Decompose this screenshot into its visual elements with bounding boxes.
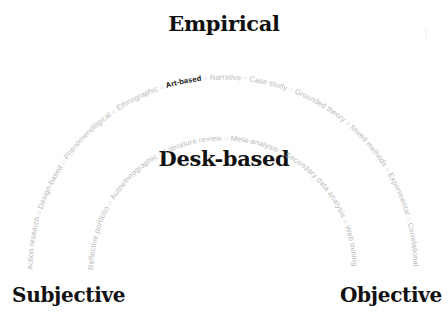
method-label-reflective-portfolio: Reflective portfolio — [86, 204, 111, 270]
methods-arc-diagram: Action research ○ Design-based ○ Phenome… — [0, 0, 448, 324]
svg-text:Reflective portfolio ○ Autoeth: Reflective portfolio ○ Autoethnographic … — [86, 133, 359, 270]
separator-circle-icon: ○ — [222, 134, 231, 141]
method-label-action-research: Action research — [25, 216, 41, 270]
method-label-web-mining: Web mining — [343, 224, 359, 266]
method-label-autoethnographic: Autoethnographic — [108, 152, 159, 201]
method-label-ethnographic: Ethnographic — [115, 84, 160, 112]
method-label-meta-analysis: Meta-analysis — [230, 134, 280, 155]
method-label-secondary-data-analysis: Secondary data analysis — [284, 150, 348, 219]
method-label-art-based: Art-based — [165, 74, 202, 90]
inner-methods-arc: Reflective portfolio ○ Autoethnographic … — [86, 133, 359, 270]
separator-circle-icon: ○ — [201, 74, 210, 82]
method-label-grounded-theory: Grounded theory — [293, 87, 348, 124]
outer-methods-arc: Action research ○ Design-based ○ Phenome… — [25, 73, 420, 271]
separator-circle-icon: ○ — [241, 74, 250, 82]
method-label-literature-review: Literature review — [163, 133, 223, 155]
separator-circle-icon: ○ — [405, 214, 414, 224]
method-label-mixed-methods: Mixed methods — [349, 123, 390, 169]
method-label-design-based: Design-based — [36, 163, 65, 210]
method-label-correlational: Correlational — [406, 222, 421, 267]
method-label-experimental: Experimental — [386, 171, 412, 216]
method-label-phenomenological: Phenomenological — [62, 110, 113, 161]
method-label-narrative: Narrative — [210, 73, 242, 83]
method-label-case-study: Case study — [249, 74, 289, 92]
svg-text:Action research ○ Design-based: Action research ○ Design-based ○ Phenome… — [25, 73, 420, 271]
